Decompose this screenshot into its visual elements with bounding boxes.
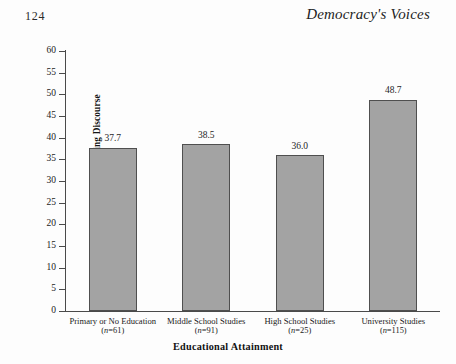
category-name: University Studies [361,316,425,326]
category-name: Middle School Studies [167,316,245,326]
x-axis-title: Educational Attainment [0,341,456,352]
bar-value-label: 37.7 [104,134,121,144]
y-axis-tick [59,181,66,182]
bar-value-label: 48.7 [385,86,402,96]
y-axis-tick-label: 40 [32,133,56,143]
y-axis-tick-label: 5 [32,284,56,294]
y-axis-tick [59,246,66,247]
category-name: High School Studies [264,316,335,326]
y-axis-tick [59,94,66,95]
x-axis-line [65,311,440,312]
bar-value-label: 38.5 [198,131,215,141]
y-axis-tick [59,138,66,139]
bar-value-label: 36.0 [291,142,308,152]
y-axis-tick-label: 60 [32,46,56,56]
y-axis-tick [59,311,66,312]
y-axis-tick-label: 10 [32,263,56,273]
book-page: 124 Democracy's Voices 05101520253035404… [0,0,456,364]
y-axis-tick-label: 50 [32,89,56,99]
bar-slot: 36.0 [253,51,347,311]
y-axis-tick [59,116,66,117]
y-axis-tick [59,203,66,204]
bar [369,100,417,311]
y-axis-tick [59,51,66,52]
bar [89,148,137,311]
y-axis-tick-label: 15 [32,241,56,251]
category-sample-size: (n=115) [337,326,449,336]
bar-slot: 48.7 [347,51,441,311]
y-axis-tick-label: 55 [32,68,56,78]
y-axis-tick-label: 25 [32,198,56,208]
y-axis-tick [59,159,66,160]
y-axis-tick-label: 30 [32,176,56,186]
bar-slot: 38.5 [160,51,254,311]
bar-slot: 37.7 [66,51,160,311]
y-axis-tick-label: 45 [32,111,56,121]
y-axis-tick-label: 20 [32,219,56,229]
y-axis-tick [59,224,66,225]
y-axis-tick-label: 0 [32,306,56,316]
bar [182,144,230,311]
bar [276,155,324,311]
category-name: Primary or No Education [69,316,156,326]
y-axis-tick-label: 35 [32,154,56,164]
y-axis-tick [59,268,66,269]
y-axis-tick [59,289,66,290]
x-axis-category-label: University Studies(n=115) [337,316,449,337]
y-axis-tick [59,73,66,74]
plot-area: Percentage Preferring Globalizing Discou… [66,51,440,311]
bar-chart: 051015202530354045505560 Percentage Pref… [0,0,456,364]
